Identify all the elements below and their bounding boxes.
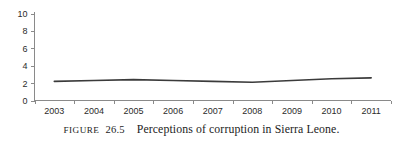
y-tick-label: 4	[22, 61, 27, 71]
figure-caption-text: Perceptions of corruption in Sierra Leon…	[137, 122, 340, 136]
data-line	[54, 78, 371, 82]
x-tick-label: 2010	[322, 106, 342, 116]
line-chart: 0246810 20032004200520062007200820092010…	[0, 0, 403, 118]
x-tick-label: 2009	[282, 106, 302, 116]
y-tick-label: 10	[17, 9, 27, 19]
x-tick-label: 2011	[362, 106, 381, 116]
x-tick-label: 2005	[124, 106, 144, 116]
y-tick-label: 2	[22, 79, 27, 89]
x-tick-label: 2003	[44, 106, 64, 116]
data-series-group	[54, 78, 371, 82]
y-tick-group: 0246810	[17, 9, 34, 106]
figure-label: FIGURE	[64, 125, 100, 135]
figure-caption: FIGURE26.5Perceptions of corruption in S…	[0, 122, 403, 137]
y-tick-label: 6	[22, 44, 27, 54]
chart-canvas: 0246810 20032004200520062007200820092010…	[0, 0, 403, 118]
x-tick-label: 2006	[163, 106, 183, 116]
y-axis: 0246810	[17, 9, 34, 106]
y-tick-label: 0	[22, 96, 27, 106]
figure-number: 26.5	[105, 124, 124, 135]
x-tick-label: 2004	[84, 106, 104, 116]
x-tick-label: 2008	[242, 106, 262, 116]
x-tick-group: 200320042005200620072008200920102011	[36, 101, 392, 116]
x-axis: 200320042005200620072008200920102011	[35, 101, 392, 116]
figure-container: 0246810 20032004200520062007200820092010…	[0, 0, 403, 148]
x-tick-label: 2007	[203, 106, 223, 116]
y-tick-label: 8	[22, 26, 27, 36]
